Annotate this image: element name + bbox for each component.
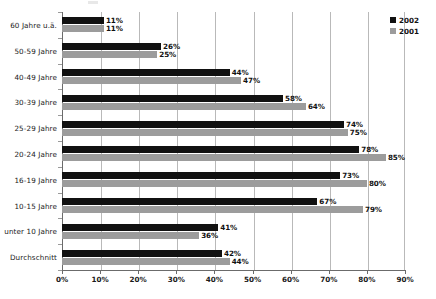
bar-value-label: 79% [365, 205, 382, 214]
bar-2001-16-19-jahre [62, 180, 367, 187]
legend-item-2002: 2002 [390, 15, 436, 25]
bar-value-label: 85% [388, 153, 405, 162]
bar-value-label: 67% [319, 197, 336, 206]
x-tick-mark [214, 270, 215, 274]
bar-2001-60-jahre-u- [62, 25, 104, 32]
bar-value-label: 58% [285, 94, 302, 103]
y-tick-mark [58, 89, 62, 90]
bar-2002-25-29-jahre [62, 121, 344, 128]
x-tick-mark [100, 270, 101, 274]
legend-item-2001: 2001 [390, 26, 436, 36]
y-tick-mark [58, 193, 62, 194]
category-label-text: 60 Jahre u.ä. [10, 21, 57, 30]
y-tick-mark [58, 64, 62, 65]
legend-swatch-2001-icon [390, 28, 396, 34]
bar-value-label: 64% [308, 102, 325, 111]
category-label-text: 10-15 Jahre [14, 202, 57, 211]
bar-2002-durchschnitt [62, 250, 222, 257]
x-tick-label: 10% [92, 275, 109, 284]
x-tick-mark [176, 270, 177, 274]
bar-value-label: 25% [159, 50, 176, 59]
x-tick-label: 40% [206, 275, 223, 284]
category-label-text: 40-49 Jahre [14, 73, 57, 82]
x-tick-label: 60% [282, 275, 299, 284]
y-tick-mark [58, 38, 62, 39]
x-tick-mark [253, 270, 254, 274]
scan-artifact [88, 1, 98, 4]
y-tick-mark [58, 167, 62, 168]
bar-2002-50-59-jahre [62, 43, 161, 50]
category-label-text: 16-19 Jahre [14, 176, 57, 185]
bar-2001-unter-10-jahre [62, 232, 199, 239]
x-tick-mark [405, 270, 406, 274]
x-tick-label: 70% [320, 275, 337, 284]
bar-2001-50-59-jahre [62, 51, 157, 58]
gridline [368, 12, 369, 270]
bar-2002-30-39-jahre [62, 95, 283, 102]
category-label-text: unter 10 Jahre [4, 227, 57, 236]
x-tick-mark [138, 270, 139, 274]
category-label-text: Durchschnitt [10, 253, 57, 262]
x-tick-label: 0% [56, 275, 68, 284]
bar-value-label: 36% [201, 231, 218, 240]
bar-value-label: 44% [232, 257, 249, 266]
bar-2002-40-49-jahre [62, 69, 230, 76]
bar-2002-16-19-jahre [62, 172, 340, 179]
legend-label-2001: 2001 [399, 27, 419, 36]
bar-2001-10-15-jahre [62, 206, 363, 213]
bar-2001-25-29-jahre [62, 129, 348, 136]
y-tick-mark [58, 141, 62, 142]
gridline [292, 12, 293, 270]
y-tick-mark [58, 218, 62, 219]
bar-2002-20-24-jahre [62, 146, 359, 153]
bar-2001-durchschnitt [62, 258, 230, 265]
x-tick-label: 80% [358, 275, 375, 284]
legend-swatch-2002-icon [390, 17, 396, 23]
bar-value-label: 73% [342, 171, 359, 180]
bar-2001-30-39-jahre [62, 103, 306, 110]
bar-value-label: 80% [369, 179, 386, 188]
bar-value-label: 75% [350, 128, 367, 137]
x-axis-line [62, 270, 406, 271]
y-tick-mark [58, 115, 62, 116]
bar-chart: 0%10%20%30%40%50%60%70%80%90%60 Jahre u.… [0, 0, 436, 299]
category-label-text: 50-59 Jahre [14, 47, 57, 56]
bar-2002-60-jahre-u- [62, 17, 104, 24]
category-label-text: 30-39 Jahre [14, 98, 57, 107]
bar-value-label: 78% [361, 145, 378, 154]
y-tick-mark [58, 244, 62, 245]
category-label-text: 20-24 Jahre [14, 150, 57, 159]
x-tick-mark [329, 270, 330, 274]
x-tick-label: 20% [130, 275, 147, 284]
x-tick-label: 90% [396, 275, 413, 284]
x-tick-mark [367, 270, 368, 274]
gridline [254, 12, 255, 270]
bar-2001-40-49-jahre [62, 77, 241, 84]
x-tick-label: 50% [244, 275, 261, 284]
category-label-text: 25-29 Jahre [14, 124, 57, 133]
bar-value-label: 41% [220, 223, 237, 232]
x-tick-mark [291, 270, 292, 274]
gridline [330, 12, 331, 270]
x-tick-mark [62, 270, 63, 274]
y-tick-mark [58, 270, 62, 271]
chart-legend: 2002 2001 [386, 12, 436, 40]
bar-value-label: 11% [106, 24, 123, 33]
x-tick-label: 30% [168, 275, 185, 284]
bar-value-label: 47% [243, 76, 260, 85]
bar-2001-20-24-jahre [62, 154, 386, 161]
bar-2002-unter-10-jahre [62, 224, 218, 231]
y-tick-mark [58, 12, 62, 13]
bar-2002-10-15-jahre [62, 198, 317, 205]
legend-label-2002: 2002 [399, 16, 419, 25]
